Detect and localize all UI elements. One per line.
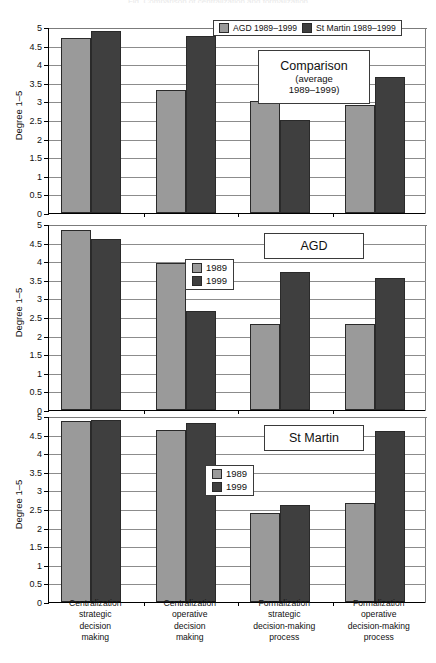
x-category-label-line: Formalization — [332, 598, 427, 609]
y-tick-mark — [44, 84, 49, 85]
y-tick-label: 2 — [37, 524, 42, 533]
legend-swatch-1999-icon — [212, 482, 222, 492]
legend-swatch-agd-icon — [219, 23, 229, 33]
y-tick-label: 3.5 — [29, 276, 42, 285]
y-tick-label: 2.5 — [29, 117, 42, 126]
bar — [250, 513, 280, 602]
y-tick-mark — [44, 374, 49, 375]
legend-label-1989: 1989 — [206, 263, 227, 273]
legend-comparison: AGD 1989–1999 St Martin 1989–1999 — [213, 20, 402, 36]
y-tick-mark — [44, 566, 49, 567]
y-tick-mark — [44, 47, 49, 48]
y-tick-mark — [44, 262, 49, 263]
y-tick-label: 1.5 — [29, 154, 42, 163]
bar — [91, 31, 121, 213]
x-category-label-line: strategic — [237, 609, 332, 620]
legend-item-1999: 1999 — [192, 276, 227, 286]
panel-subtitle-line1-comparison: (average — [295, 73, 333, 84]
y-tick-mark — [44, 473, 49, 474]
y-tick-mark — [44, 547, 49, 548]
y-tick-label: 1 — [37, 172, 42, 181]
y-tick-label: 1 — [37, 369, 42, 378]
legend-swatch-1989-icon — [192, 263, 202, 273]
plot-area-st-martin: 00.511.522.533.544.55 — [48, 417, 426, 603]
y-tick-label: 1 — [37, 561, 42, 570]
bar — [375, 77, 405, 213]
panel-comparison: 00.511.522.533.544.55 Degree 1–5 AGD 198… — [0, 18, 436, 208]
x-category-label-line: decision-making — [237, 621, 332, 632]
bar — [156, 430, 186, 602]
cropped-header-text: Fig. Comparison of centralization and fo… — [0, 0, 436, 3]
bar — [280, 505, 310, 602]
y-tick-label: 4.5 — [29, 239, 42, 248]
x-category-label-line: Formalization — [237, 598, 332, 609]
bar — [250, 324, 280, 410]
bar — [345, 105, 375, 213]
legend-swatch-1989-icon — [212, 469, 222, 479]
bar — [61, 38, 91, 213]
y-tick-mark — [44, 121, 49, 122]
y-tick-label: 5 — [37, 221, 42, 230]
x-category-label-line: operative — [143, 609, 238, 620]
x-category-label-line: process — [237, 632, 332, 643]
y-tick-mark — [44, 436, 49, 437]
x-category-label-line: decision — [48, 621, 143, 632]
legend-label-1999: 1999 — [226, 482, 247, 492]
y-tick-mark — [44, 454, 49, 455]
bar — [250, 101, 280, 213]
bar — [156, 263, 186, 410]
bar — [345, 503, 375, 602]
panel-title-box-st-martin: St Martin — [264, 425, 364, 451]
y-tick-mark — [44, 281, 49, 282]
legend-item-agd: AGD 1989–1999 — [219, 23, 297, 33]
legend-item-1989: 1989 — [212, 469, 247, 479]
panel-title-box-agd: AGD — [264, 233, 364, 259]
legend-st-martin: 1989 1999 — [205, 465, 254, 496]
y-tick-mark — [44, 510, 49, 511]
y-tick-mark — [44, 244, 49, 245]
y-tick-label: 2.5 — [29, 506, 42, 515]
y-tick-mark — [44, 28, 49, 29]
y-tick-label: 0.5 — [29, 580, 42, 589]
bar — [91, 239, 121, 410]
bar — [186, 423, 216, 602]
bar — [375, 431, 405, 602]
x-category-label: Centralizationoperativedecisionmaking — [143, 598, 238, 644]
y-tick-mark — [44, 140, 49, 141]
bar — [156, 90, 186, 213]
y-tick-mark — [44, 337, 49, 338]
x-category-label-line: decision — [143, 621, 238, 632]
legend-label-st-martin: St Martin 1989–1999 — [316, 24, 396, 33]
legend-label-agd: AGD 1989–1999 — [233, 24, 297, 33]
panel-title-agd: AGD — [300, 239, 327, 253]
x-category-label: Formalizationstrategicdecision-makingpro… — [237, 598, 332, 644]
y-tick-mark — [44, 417, 49, 418]
x-category-label-line: making — [48, 632, 143, 643]
bar — [186, 36, 216, 213]
x-category-label-line: making — [143, 632, 238, 643]
x-category-label-line: Centralization — [48, 598, 143, 609]
figure-three-panel-bar-charts: Fig. Comparison of centralization and fo… — [0, 0, 436, 663]
y-tick-label: 3 — [37, 295, 42, 304]
y-tick-mark — [44, 299, 49, 300]
legend-label-1989: 1989 — [226, 469, 247, 479]
y-tick-mark — [44, 584, 49, 585]
bar — [345, 324, 375, 410]
y-tick-label: 2.5 — [29, 314, 42, 323]
y-tick-mark — [44, 177, 49, 178]
y-tick-label: 0 — [37, 599, 42, 608]
legend-swatch-st-martin-icon — [302, 23, 312, 33]
y-tick-label: 1.5 — [29, 543, 42, 552]
y-tick-label: 3.5 — [29, 79, 42, 88]
bar — [186, 311, 216, 410]
y-tick-mark — [44, 225, 49, 226]
y-tick-label: 2 — [37, 332, 42, 341]
bar — [280, 120, 310, 213]
y-tick-label: 4.5 — [29, 431, 42, 440]
y-tick-mark — [44, 65, 49, 66]
x-category-label-line: Centralization — [143, 598, 238, 609]
legend-item-st-martin: St Martin 1989–1999 — [302, 23, 396, 33]
x-category-label-line: strategic — [48, 609, 143, 620]
y-tick-mark — [44, 491, 49, 492]
legend-swatch-1999-icon — [192, 276, 202, 286]
